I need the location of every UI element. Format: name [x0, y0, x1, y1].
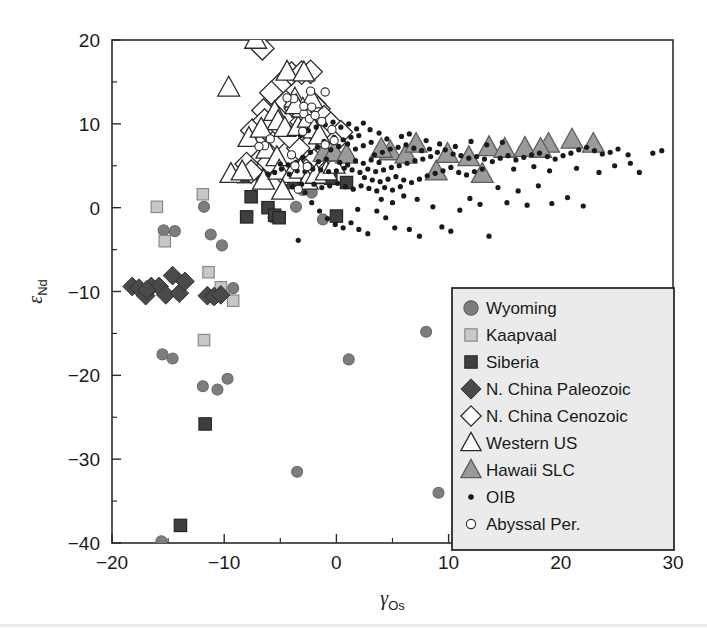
data-point	[292, 466, 303, 477]
legend-item-siberia[interactable]: Siberia	[454, 349, 672, 374]
data-point	[296, 238, 301, 243]
legend-marker-filled-square	[465, 356, 477, 368]
data-point	[315, 145, 320, 150]
data-point	[466, 156, 471, 161]
data-point	[553, 156, 558, 161]
x-axis-tick-label: 0	[331, 552, 342, 573]
data-point	[415, 197, 420, 202]
data-point	[376, 130, 381, 135]
data-point	[433, 171, 438, 176]
data-point	[335, 181, 340, 186]
data-point	[325, 216, 330, 221]
legend-item-abyssal-per-[interactable]: Abyssal Per.	[454, 511, 672, 536]
data-point	[529, 152, 534, 157]
data-point	[417, 177, 422, 182]
data-point	[272, 170, 277, 175]
data-point	[401, 177, 406, 182]
legend-item-n-china-cenozoic[interactable]: N. China Cenozoic	[454, 403, 672, 428]
data-point	[596, 170, 601, 175]
data-point	[255, 142, 263, 150]
data-point	[404, 161, 409, 166]
data-point	[308, 150, 313, 155]
data-point	[361, 120, 366, 125]
series-legend[interactable]: WyomingKaapvaalSiberiaN. China Paleozoic…	[452, 288, 674, 550]
data-point	[392, 225, 397, 230]
data-point	[203, 267, 214, 278]
data-point	[560, 153, 565, 158]
data-point	[306, 87, 314, 95]
data-point	[490, 159, 495, 164]
y-axis-tick-label: 0	[89, 198, 100, 219]
data-point	[351, 187, 356, 192]
legend-item-western-us[interactable]: Western US	[454, 430, 672, 455]
data-point	[537, 151, 542, 156]
data-point	[626, 152, 631, 157]
data-point	[568, 151, 573, 156]
data-point	[299, 127, 307, 135]
data-point	[494, 138, 516, 158]
data-point	[525, 203, 530, 208]
legend-item-n-china-paleozoic[interactable]: N. China Paleozoic	[454, 376, 672, 401]
data-point	[157, 349, 168, 360]
legend-item-label: Abyssal Per.	[486, 515, 581, 534]
legend-item-hawaii-slc[interactable]: Hawaii SLC	[454, 457, 672, 482]
data-point	[380, 150, 385, 155]
data-point	[348, 220, 353, 225]
data-point	[561, 128, 583, 148]
data-point	[327, 183, 332, 188]
data-point	[398, 184, 403, 189]
data-point	[314, 125, 319, 130]
data-point	[338, 125, 343, 130]
legend-item-wyoming[interactable]: Wyoming	[454, 295, 672, 320]
data-point	[545, 154, 550, 159]
data-point	[318, 167, 323, 172]
data-point	[498, 156, 503, 161]
data-point	[608, 150, 613, 155]
data-point	[199, 418, 211, 430]
data-point	[362, 175, 367, 180]
x-axis-tick-label: 10	[438, 552, 459, 573]
data-point	[472, 169, 477, 174]
data-point	[197, 381, 208, 392]
legend-item-label: Hawaii SLC	[486, 461, 575, 480]
data-point	[167, 353, 178, 364]
data-point	[337, 160, 342, 165]
data-point	[273, 212, 285, 224]
data-point	[504, 200, 509, 205]
data-point	[453, 144, 458, 149]
data-point	[286, 162, 291, 167]
data-point	[308, 103, 316, 111]
y-axis-tick-label: −20	[68, 365, 100, 386]
data-point	[199, 201, 210, 212]
data-point	[321, 141, 329, 149]
data-point	[212, 384, 223, 395]
data-point	[354, 126, 359, 131]
legend-item-oib[interactable]: OIB	[454, 484, 672, 509]
data-point	[291, 201, 302, 212]
data-point	[480, 167, 485, 172]
data-point	[428, 154, 433, 159]
data-point	[477, 202, 482, 207]
data-point	[316, 159, 321, 164]
data-point	[198, 334, 209, 345]
data-point	[536, 183, 541, 188]
data-point	[547, 168, 552, 173]
data-point	[343, 354, 354, 365]
legend-item-label: Wyoming	[486, 299, 557, 318]
y-axis-tick-label: −10	[68, 282, 100, 303]
data-point	[584, 145, 589, 150]
data-point	[367, 127, 372, 132]
data-point	[300, 155, 305, 160]
data-point	[650, 151, 655, 156]
legend-item-label: N. China Paleozoic	[486, 380, 631, 399]
data-point	[361, 143, 366, 148]
legend-item-label: Kaapvaal	[486, 326, 557, 345]
data-point	[174, 519, 186, 531]
data-point	[370, 177, 375, 182]
data-point	[328, 147, 333, 152]
series-kaapvaal	[151, 171, 324, 346]
legend-item-kaapvaal[interactable]: Kaapvaal	[454, 322, 672, 347]
data-point	[549, 201, 554, 206]
data-point	[369, 140, 374, 145]
data-point	[240, 211, 252, 223]
